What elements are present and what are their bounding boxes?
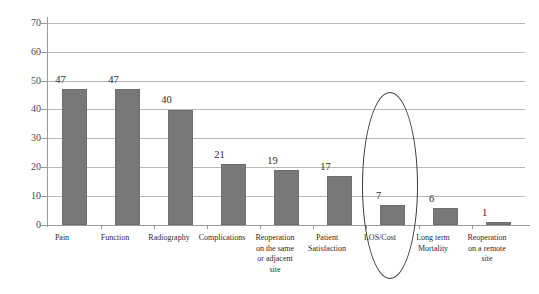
x-axis-label-patient-satisfaction-line-2: Satisfaction <box>300 244 354 255</box>
bar-los-cost[interactable] <box>380 205 405 225</box>
x-axis-label-function: Function <box>89 233 141 244</box>
y-tick-60 <box>41 52 47 53</box>
value-label-reoperation-same-site: 19 <box>255 155 290 166</box>
x-axis-label-long-term-mortality: Long term Mortality <box>406 233 460 254</box>
value-label-los-cost: 7 <box>361 190 396 201</box>
x-tick-2 <box>154 225 155 229</box>
x-axis-label-reoperation-remote-site-line-3: site <box>459 254 515 265</box>
x-tick-4 <box>260 225 261 229</box>
bar-reoperation-remote-site[interactable] <box>486 222 511 225</box>
bar-complications[interactable] <box>221 164 246 225</box>
x-axis-label-reoperation-same-site-line-1: Reoperation <box>246 233 304 244</box>
value-label-pain: 47 <box>43 74 78 85</box>
bar-patient-satisfaction[interactable] <box>327 176 352 225</box>
x-axis-label-patient-satisfaction: Patient Satisfaction <box>300 233 354 254</box>
y-tick-0 <box>41 225 47 226</box>
x-axis-label-los-cost-line-1: LOS/Cost <box>354 233 406 244</box>
value-label-patient-satisfaction: 17 <box>308 161 343 172</box>
x-axis-label-reoperation-same-site: Reoperation on the same or adjacent site <box>246 233 304 275</box>
y-axis-label-20: 20 <box>15 162 41 172</box>
value-label-complications: 21 <box>202 149 237 160</box>
y-tick-70 <box>41 23 47 24</box>
x-axis-line <box>40 225 530 226</box>
x-axis-label-radiography-line-1: Radiography <box>141 233 197 244</box>
y-axis-label-60: 60 <box>15 47 41 57</box>
x-axis-label-function-line-1: Function <box>89 233 141 244</box>
x-axis-label-reoperation-same-site-line-2: on the same <box>246 244 304 255</box>
x-axis-label-pain: Pain <box>36 233 88 244</box>
y-axis-label-40: 40 <box>15 104 41 114</box>
x-axis-label-complications-line-1: Complications <box>193 233 251 244</box>
x-tick-7 <box>419 225 420 229</box>
value-label-radiography: 40 <box>149 94 184 105</box>
bar-chart: 70 60 50 40 30 20 10 0 47 47 40 21 19 17… <box>0 0 539 294</box>
bar-long-term-mortality[interactable] <box>433 208 458 225</box>
x-axis-label-long-term-mortality-line-2: Mortality <box>406 244 460 255</box>
x-tick-3 <box>207 225 208 229</box>
x-axis-label-los-cost: LOS/Cost <box>354 233 406 244</box>
x-axis-label-patient-satisfaction-line-1: Patient <box>300 233 354 244</box>
x-tick-8 <box>472 225 473 229</box>
y-tick-30 <box>41 138 47 139</box>
bar-reoperation-same-site[interactable] <box>274 170 299 225</box>
x-tick-1 <box>101 225 102 229</box>
y-tick-10 <box>41 196 47 197</box>
x-axis-label-pain-line-1: Pain <box>36 233 88 244</box>
x-tick-5 <box>313 225 314 229</box>
y-tick-20 <box>41 167 47 168</box>
x-tick-6 <box>366 225 367 229</box>
x-axis-label-reoperation-same-site-line-3: or adjacent <box>246 254 304 265</box>
bar-pain[interactable] <box>62 89 87 225</box>
y-axis-label-50: 50 <box>15 76 41 86</box>
x-axis-label-reoperation-remote-site-line-2: on a remote <box>459 244 515 255</box>
x-axis-label-reoperation-remote-site-line-1: Reoperation <box>459 233 515 244</box>
value-label-reoperation-remote-site: 1 <box>467 207 502 218</box>
y-axis-label-10: 10 <box>15 191 41 201</box>
x-axis-label-reoperation-same-site-line-4: site <box>246 265 304 276</box>
x-axis-label-long-term-mortality-line-1: Long term <box>406 233 460 244</box>
value-label-long-term-mortality: 6 <box>414 193 449 204</box>
x-axis-label-complications: Complications <box>193 233 251 244</box>
y-axis-label-30: 30 <box>15 133 41 143</box>
y-axis-label-70: 70 <box>15 18 41 28</box>
y-tick-40 <box>41 109 47 110</box>
bar-function[interactable] <box>115 89 140 225</box>
bars-layer <box>48 23 525 225</box>
value-label-function: 47 <box>96 74 131 85</box>
y-axis-label-0: 0 <box>15 220 41 230</box>
x-axis-label-reoperation-remote-site: Reoperation on a remote site <box>459 233 515 265</box>
bar-radiography[interactable] <box>168 110 193 225</box>
y-axis-labels: 70 60 50 40 30 20 10 0 <box>8 0 41 294</box>
x-axis-label-radiography: Radiography <box>141 233 197 244</box>
